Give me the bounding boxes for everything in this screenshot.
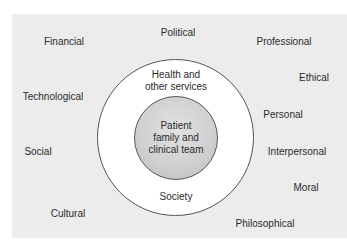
factor-political: Political [161,27,195,39]
ring-label-health-services: Health and other services [145,69,207,93]
factor-interpersonal: Interpersonal [268,146,326,158]
factor-ethical: Ethical [299,72,329,84]
core-label-line: family and [148,132,203,144]
factor-cultural: Cultural [51,208,85,220]
factor-professional: Professional [256,36,311,48]
core-label-line: Patient [148,120,203,132]
factor-moral: Moral [293,182,318,194]
factor-social: Social [24,146,51,158]
ring-label-line: other services [145,81,207,93]
ring-label-line: Health and [145,69,207,81]
factor-philosophical: Philosophical [236,218,295,230]
core-label: Patient family and clinical team [148,120,203,156]
core-label-line: clinical team [148,144,203,156]
factor-financial: Financial [44,36,84,48]
factor-personal: Personal [263,109,302,121]
factor-technological: Technological [23,91,84,103]
ring-label-society: Society [160,191,193,203]
